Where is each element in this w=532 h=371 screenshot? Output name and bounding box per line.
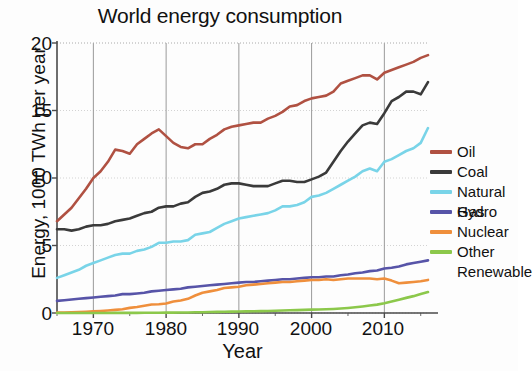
legend-swatch-oil xyxy=(430,150,452,154)
legend-label-other-renewable: Other Renewable xyxy=(457,242,532,282)
axis-ticks xyxy=(52,43,421,318)
legend-item-natural-gas[interactable]: Natural Gas xyxy=(430,182,518,202)
legend-label-oil: Oil xyxy=(457,142,475,162)
legend-item-coal[interactable]: Coal xyxy=(430,162,518,182)
data-series xyxy=(57,55,428,313)
legend-item-other-renewable[interactable]: Other Renewable xyxy=(430,242,518,282)
legend-swatch-natural-gas xyxy=(430,190,452,194)
chart-legend: Oil Coal Natural Gas Hydro Nuclear Other… xyxy=(430,142,518,282)
legend-item-oil[interactable]: Oil xyxy=(430,142,518,162)
legend-label-coal: Coal xyxy=(457,162,488,182)
legend-item-nuclear[interactable]: Nuclear xyxy=(430,222,518,242)
axis-lines xyxy=(57,41,438,313)
gridlines xyxy=(57,43,428,313)
legend-swatch-other-renewable xyxy=(430,250,452,254)
legend-label-hydro: Hydro xyxy=(457,202,497,222)
legend-swatch-hydro xyxy=(430,210,452,214)
legend-swatch-nuclear xyxy=(430,230,452,234)
legend-label-nuclear: Nuclear xyxy=(457,222,509,242)
legend-swatch-coal xyxy=(430,170,452,174)
